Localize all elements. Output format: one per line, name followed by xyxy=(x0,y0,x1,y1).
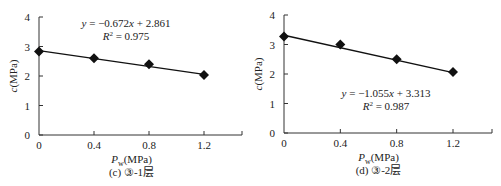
y-tick-label: 0 xyxy=(25,129,31,141)
y-tick-label: 3 xyxy=(270,39,276,51)
y-tick-label: 1 xyxy=(25,100,31,112)
data-point-diamond xyxy=(392,54,402,64)
x-tick-label: 0 xyxy=(36,139,42,151)
data-point-diamond xyxy=(34,47,44,57)
x-tick-label: 0.8 xyxy=(390,137,404,149)
data-point-diamond xyxy=(199,70,209,80)
x-tick-label: 0.4 xyxy=(333,137,347,149)
data-point-diamond xyxy=(89,53,99,63)
chart-d-plot: 0123400.40.81.2c(MPa)Pw(MPa)(d) ③-2层y = … xyxy=(250,0,501,186)
chart-caption: (d) ③-2层 xyxy=(356,164,402,177)
y-tick-label: 0 xyxy=(270,127,276,139)
trendline-equation: y = −1.055x + 3.313 xyxy=(341,87,431,99)
trendline xyxy=(39,51,204,75)
x-tick-label: 1.2 xyxy=(446,137,460,149)
y-tick-label: 4 xyxy=(270,9,276,21)
x-tick-label: 0.4 xyxy=(87,139,101,151)
x-tick-label: 0 xyxy=(281,137,287,149)
chart-panel-c: 0123400.40.81.2c(MPa)Pw(MPa)(c) ③-1层y = … xyxy=(0,0,250,186)
trendline-equation: y = −0.672x + 2.861 xyxy=(81,17,171,29)
x-tick-label: 1.2 xyxy=(197,139,211,151)
chart-panel-d: 0123400.40.81.2c(MPa)Pw(MPa)(d) ③-2层y = … xyxy=(250,0,501,186)
y-tick-label: 4 xyxy=(25,11,31,23)
trendline xyxy=(284,35,453,72)
y-axis-label: c(MPa) xyxy=(7,59,20,92)
data-point-diamond xyxy=(448,67,458,77)
r-squared-label: R2 = 0.987 xyxy=(362,100,410,112)
y-tick-label: 2 xyxy=(25,70,31,82)
r-squared-label: R2 = 0.975 xyxy=(102,30,150,42)
x-tick-label: 0.8 xyxy=(142,139,156,151)
data-point-diamond xyxy=(144,59,154,69)
chart-c-plot: 0123400.40.81.2c(MPa)Pw(MPa)(c) ③-1层y = … xyxy=(0,0,250,186)
y-tick-label: 1 xyxy=(270,98,276,110)
data-point-diamond xyxy=(279,32,289,42)
y-tick-label: 3 xyxy=(25,41,31,53)
y-axis-label: c(MPa) xyxy=(252,57,265,90)
chart-caption: (c) ③-1层 xyxy=(109,166,154,179)
y-tick-label: 2 xyxy=(270,68,276,80)
